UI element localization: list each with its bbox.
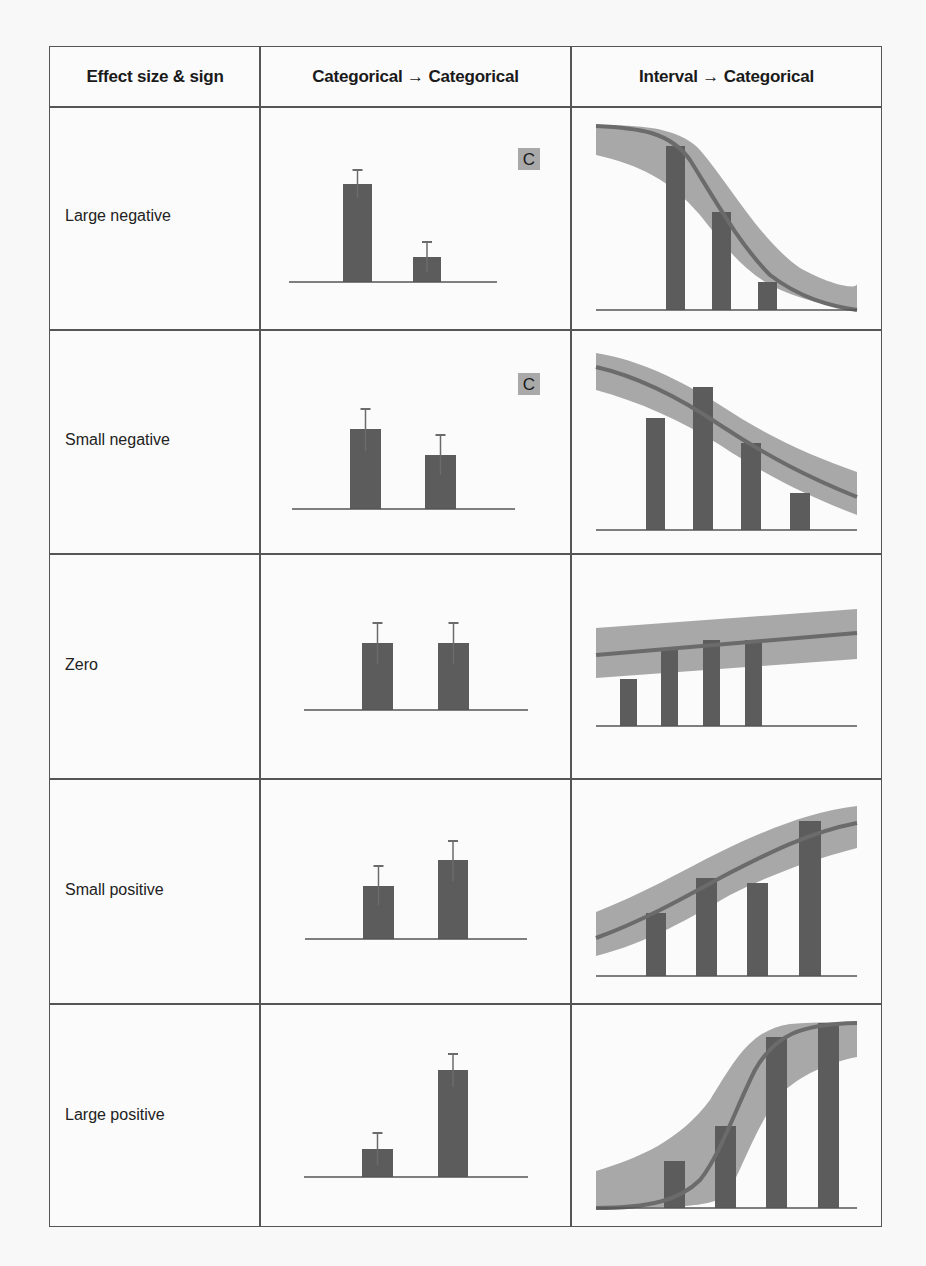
bar <box>666 146 685 310</box>
interval-plot <box>596 126 857 310</box>
bar <box>799 821 821 976</box>
interval-plot <box>596 353 857 530</box>
categorical-plot <box>305 841 527 939</box>
bar <box>620 679 637 726</box>
badge-label: C <box>523 375 535 394</box>
interval-plot <box>596 1022 857 1208</box>
bar <box>818 1023 839 1208</box>
interval-plot <box>596 609 857 726</box>
bar <box>661 648 678 726</box>
bar <box>790 493 810 530</box>
bar <box>766 1037 787 1208</box>
categorical-plot: C <box>292 373 540 509</box>
categorical-plot: C <box>289 148 540 282</box>
bar <box>703 640 720 726</box>
bar <box>741 443 761 530</box>
badge-label: C <box>523 150 535 169</box>
plots-layer: CC <box>0 0 926 1266</box>
bar <box>646 913 666 976</box>
interval-plot <box>596 806 857 976</box>
bar <box>646 418 665 530</box>
bar <box>712 212 731 310</box>
bar <box>747 883 768 976</box>
bar <box>758 282 777 310</box>
categorical-plot <box>304 623 528 710</box>
categorical-plot <box>304 1054 528 1177</box>
bar <box>696 878 717 976</box>
bar <box>343 184 372 282</box>
bar <box>745 640 762 726</box>
